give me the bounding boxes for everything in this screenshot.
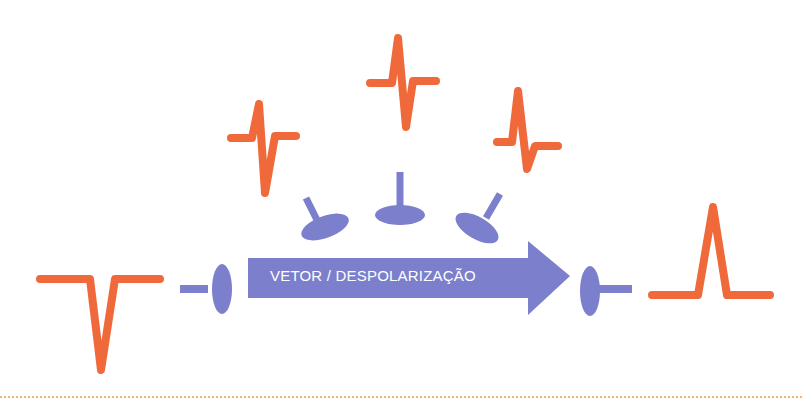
- right-electrode-icon: [580, 266, 632, 316]
- biphasic-waveform-top-center-icon: [370, 38, 436, 127]
- upper-left-electrode-icon: [298, 198, 353, 246]
- top-center-electrode-icon: [375, 172, 425, 225]
- biphasic-waveform-upper-right-icon: [497, 91, 558, 169]
- positive-deflection-waveform-icon: [652, 207, 770, 295]
- dotted-divider: [0, 396, 802, 398]
- diagram-graphics: [0, 0, 802, 402]
- depolarization-vector-diagram: VETOR / DESPOLARIZAÇÃO: [0, 0, 802, 402]
- left-electrode-icon: [180, 264, 232, 314]
- negative-deflection-waveform-icon: [40, 279, 160, 370]
- upper-right-electrode-icon: [451, 194, 504, 250]
- vector-arrow-label: VETOR / DESPOLARIZAÇÃO: [248, 259, 528, 293]
- biphasic-waveform-upper-left-icon: [231, 104, 296, 193]
